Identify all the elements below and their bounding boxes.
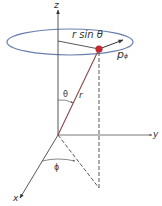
y-axis-label: y — [153, 130, 158, 139]
x-axis-label: x — [13, 194, 18, 203]
r-label: r — [79, 91, 83, 100]
phi-label: ϕ — [54, 164, 59, 172]
r-sin-theta-line — [58, 41, 99, 49]
z-axis-label: z — [54, 1, 59, 10]
p-phi-subscript: ϕ — [124, 52, 128, 59]
p-phi-label: pϕ — [117, 49, 128, 60]
particle-dot — [95, 45, 102, 52]
theta-label: θ — [63, 91, 68, 99]
r-sin-theta-label: r sin θ — [72, 30, 103, 40]
p-phi-main: p — [117, 48, 124, 61]
phi-arc — [42, 159, 75, 161]
xy-projection-dashed — [58, 135, 99, 188]
theta-arc — [58, 100, 73, 103]
orbit-ellipse — [7, 29, 133, 55]
x-axis — [20, 135, 58, 198]
